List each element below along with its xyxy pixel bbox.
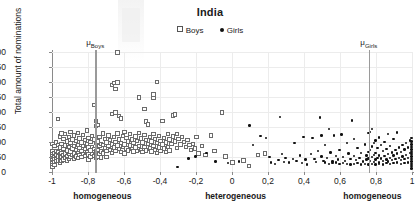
data-point-boys bbox=[58, 160, 63, 165]
data-point-boys bbox=[50, 160, 55, 165]
data-point-boys bbox=[59, 151, 64, 156]
data-point-girls bbox=[401, 144, 404, 147]
data-point-boys bbox=[176, 137, 181, 142]
x-axis-tick-label: 0,6 bbox=[325, 177, 355, 186]
data-point-girls bbox=[398, 146, 401, 149]
data-point-boys bbox=[61, 147, 66, 152]
x-axis-tick bbox=[196, 172, 197, 175]
data-point-girls bbox=[317, 150, 320, 153]
category-label: heterogeneous bbox=[205, 191, 266, 201]
data-point-boys bbox=[112, 135, 117, 140]
data-point-boys bbox=[101, 143, 106, 148]
data-point-girls bbox=[281, 153, 284, 156]
data-point-girls bbox=[371, 163, 374, 166]
chart-legend: Boys Girls bbox=[0, 26, 420, 35]
data-point-boys bbox=[50, 152, 55, 157]
y-axis-tick bbox=[49, 97, 52, 98]
data-point-boys bbox=[151, 144, 156, 149]
data-point-girls bbox=[344, 160, 347, 163]
mu-girls-line bbox=[369, 50, 370, 173]
data-point-girls bbox=[373, 161, 376, 164]
data-point-boys bbox=[140, 150, 145, 155]
data-point-boys bbox=[166, 145, 171, 150]
data-point-girls bbox=[364, 163, 367, 166]
data-point-girls bbox=[396, 131, 399, 134]
legend-entry-boys: Boys bbox=[177, 26, 204, 35]
y-axis-tick bbox=[49, 157, 52, 158]
data-point-girls bbox=[292, 158, 295, 161]
legend-label-boys: Boys bbox=[186, 26, 204, 35]
mu-girls-label: μGirls bbox=[360, 38, 377, 49]
data-point-girls bbox=[394, 158, 397, 161]
data-point-girls bbox=[324, 161, 327, 164]
data-point-boys bbox=[148, 146, 153, 151]
data-point-boys bbox=[59, 131, 64, 136]
gridline-vertical bbox=[376, 52, 377, 172]
mu-boys-label: μBoys bbox=[86, 38, 104, 49]
data-point-girls bbox=[331, 160, 334, 163]
data-point-boys bbox=[139, 136, 144, 141]
x-axis-tick-label: -1 bbox=[37, 177, 67, 186]
data-point-boys bbox=[119, 150, 124, 155]
data-point-girls bbox=[382, 163, 385, 166]
data-point-boys bbox=[171, 134, 176, 139]
legend-entry-girls: Girls bbox=[220, 26, 243, 35]
data-point-boys bbox=[117, 114, 122, 119]
data-point-boys bbox=[56, 150, 61, 155]
data-point-boys bbox=[76, 143, 81, 148]
open-square-icon bbox=[177, 26, 183, 32]
y-axis-tick-label: 200 bbox=[0, 108, 6, 116]
y-axis-tick-label: 250 bbox=[0, 93, 6, 101]
mu-boys-line bbox=[95, 50, 96, 173]
data-point-boys bbox=[52, 151, 57, 156]
data-point-girls bbox=[378, 163, 381, 166]
data-point-boys bbox=[209, 133, 214, 138]
data-point-girls bbox=[265, 137, 268, 140]
data-point-girls bbox=[277, 159, 280, 162]
data-point-girls bbox=[396, 152, 399, 155]
x-axis-tick bbox=[268, 172, 269, 175]
gridline-vertical bbox=[88, 52, 89, 172]
chart-title: India bbox=[0, 6, 420, 18]
data-point-boys bbox=[149, 149, 154, 154]
chart-figure: India Boys Girls Total amount of nominat… bbox=[0, 0, 420, 215]
y-axis-tick bbox=[49, 82, 52, 83]
data-point-boys bbox=[113, 87, 118, 92]
data-point-boys bbox=[99, 149, 104, 154]
y-axis-label: Total amount of nominations bbox=[13, 0, 23, 129]
data-point-boys bbox=[115, 131, 120, 136]
data-point-boys bbox=[175, 146, 180, 151]
x-axis-tick bbox=[376, 172, 377, 175]
category-label: homogeneous bbox=[73, 191, 131, 201]
data-point-boys bbox=[171, 113, 176, 118]
data-point-girls bbox=[403, 148, 406, 151]
data-point-boys bbox=[148, 135, 153, 140]
data-point-girls bbox=[371, 128, 374, 131]
data-point-boys bbox=[133, 145, 138, 150]
data-point-girls bbox=[400, 159, 403, 162]
data-point-boys bbox=[101, 151, 106, 156]
data-point-boys bbox=[56, 117, 61, 122]
data-point-boys bbox=[67, 152, 72, 157]
data-point-boys bbox=[68, 130, 73, 135]
data-point-girls bbox=[315, 161, 318, 164]
data-point-girls bbox=[403, 158, 406, 161]
data-point-girls bbox=[385, 148, 388, 151]
data-point-girls bbox=[342, 162, 345, 165]
data-point-boys bbox=[50, 161, 55, 166]
data-point-boys bbox=[77, 146, 82, 151]
gridline-vertical bbox=[160, 52, 161, 172]
x-axis-tick bbox=[304, 172, 305, 175]
data-point-girls bbox=[328, 128, 331, 131]
data-point-boys bbox=[63, 143, 68, 148]
x-axis-tick-label: 0,8 bbox=[361, 177, 391, 186]
data-point-boys bbox=[162, 146, 167, 151]
data-point-boys bbox=[50, 165, 55, 170]
data-point-boys bbox=[139, 148, 144, 153]
data-point-boys bbox=[67, 135, 72, 140]
data-point-girls bbox=[322, 160, 325, 163]
data-point-girls bbox=[337, 158, 340, 161]
data-point-boys bbox=[108, 148, 113, 153]
data-point-boys bbox=[67, 145, 72, 150]
data-point-boys bbox=[54, 149, 59, 154]
